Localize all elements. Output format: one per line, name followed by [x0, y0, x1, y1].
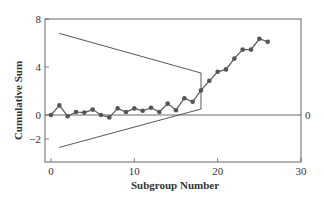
right-center-label: 0	[305, 109, 311, 121]
x-tick-label: 10	[129, 165, 141, 177]
y-tick-label: −2	[29, 133, 41, 145]
data-point	[190, 100, 195, 105]
data-point	[90, 107, 95, 112]
data-point	[132, 106, 137, 111]
data-point	[232, 56, 237, 61]
data-point	[157, 110, 162, 115]
data-point	[249, 47, 254, 52]
data-point	[107, 115, 112, 120]
data-point	[74, 110, 79, 115]
data-point	[49, 113, 54, 118]
data-point	[257, 37, 262, 42]
data-point	[99, 113, 104, 118]
data-point	[240, 47, 245, 52]
x-axis-title: Subgroup Number	[131, 179, 219, 191]
data-point	[115, 106, 120, 111]
data-point	[199, 88, 204, 93]
x-tick-label: 20	[212, 165, 224, 177]
data-series	[49, 37, 270, 120]
y-tick-label: 4	[36, 61, 42, 73]
data-point	[174, 108, 179, 113]
data-point	[207, 79, 212, 84]
data-point	[165, 101, 170, 106]
v-mask-lines	[59, 33, 201, 147]
data-point	[224, 67, 229, 72]
cusum-line	[51, 39, 268, 118]
x-tick-label: 30	[296, 165, 308, 177]
y-axis-title: Cumulative Sum	[12, 61, 24, 140]
data-point	[265, 40, 270, 45]
data-point	[182, 96, 187, 101]
data-point	[57, 103, 62, 108]
data-point	[140, 109, 145, 114]
data-point	[82, 110, 87, 115]
data-point	[65, 114, 70, 119]
data-point	[124, 110, 129, 115]
data-point	[215, 70, 220, 75]
x-tick-label: 0	[48, 165, 54, 177]
axis-labels: −204801020300Subgroup NumberCumulative S…	[12, 13, 311, 191]
v-mask	[59, 33, 201, 147]
data-point	[149, 106, 154, 111]
y-tick-label: 8	[36, 13, 42, 25]
chart-svg: −204801020300Subgroup NumberCumulative S…	[0, 0, 324, 202]
y-tick-label: 0	[36, 109, 42, 121]
cusum-chart: −204801020300Subgroup NumberCumulative S…	[0, 0, 324, 202]
